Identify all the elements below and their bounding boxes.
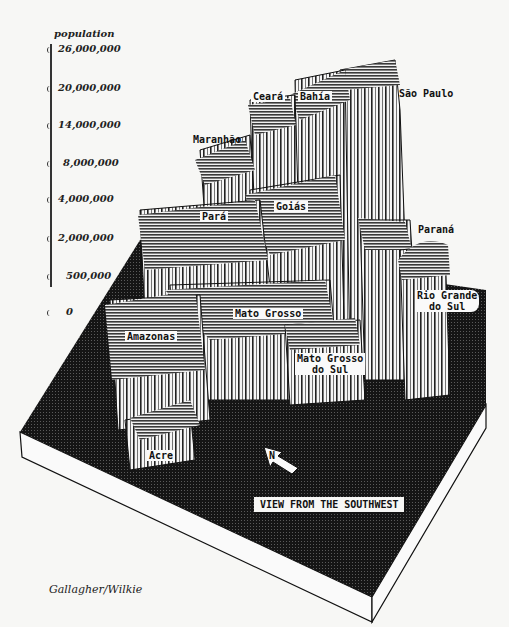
label-line-1: Rio Grande — [417, 290, 477, 301]
state-label-maranhao: Maranhão — [191, 134, 243, 145]
north-arrow-label: N — [269, 450, 275, 461]
state-label-sao-paulo: São Paulo — [397, 88, 455, 99]
view-direction-label: VIEW FROM THE SOUTHWEST — [254, 497, 404, 512]
state-label-bahia: Bahía — [298, 91, 332, 102]
label-line-2: do Sul — [417, 301, 477, 312]
credit-text: Gallagher/Wilkie — [49, 583, 142, 596]
state-label-para: Pará — [200, 211, 228, 222]
state-label-mato-grosso: Mato Grosso — [233, 308, 303, 319]
label-line-1: Mato Grosso — [297, 353, 363, 364]
state-label-rio-grande-do-sul: Rio Grande do Sul — [415, 290, 479, 312]
state-label-parana: Paraná — [416, 224, 456, 235]
state-label-mato-grosso-do-sul: Mato Grosso do Sul — [295, 353, 365, 375]
label-line-2: do Sul — [297, 364, 363, 375]
state-label-amazonas: Amazonas — [125, 331, 177, 342]
state-label-ceara: Ceará — [251, 91, 285, 102]
state-label-goias: Goiás — [274, 201, 308, 212]
state-label-acre: Acre — [147, 450, 175, 461]
